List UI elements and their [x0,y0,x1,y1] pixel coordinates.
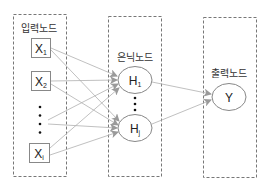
edge-dots-h1 [48,84,118,120]
neural-network-diagram: 입력노드 은닉노드 출력노드 X1 X2 Xi H1 [0,0,266,190]
input-layer-title: 입력노드 [21,22,57,34]
input-node-x1: X1 [32,39,51,58]
edge-xi-h1 [50,88,119,148]
svg-text:Y: Y [225,91,233,105]
edge-hj-y [152,100,211,124]
edge-xi-hj [50,132,118,155]
input-ellipsis [39,106,42,134]
edge-h1-y [152,82,211,94]
edge-x2-h1 [51,80,117,81]
hidden-node-h1: H1 [118,67,152,94]
hidden-node-hj: Hj [118,115,152,142]
edge-x2-hj [51,84,118,125]
hidden-layer-box [109,17,162,177]
hidden-ellipsis [134,97,137,112]
input-node-xi: Xi [30,144,50,163]
edge-dots-hj [48,124,117,128]
input-node-x2: X2 [32,72,51,91]
hidden-output-edges [152,82,211,124]
output-layer-title: 출력노드 [211,68,247,79]
hidden-layer-title: 은닉노드 [117,52,153,63]
output-node-y: Y [212,84,246,111]
edge-x1-h1 [51,48,117,76]
